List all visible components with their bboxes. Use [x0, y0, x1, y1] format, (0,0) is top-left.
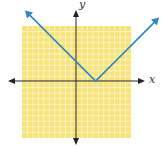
absolute-value-chart	[0, 0, 161, 147]
y-axis-label: y	[79, 0, 85, 11]
x-axis-label: x	[149, 73, 155, 86]
